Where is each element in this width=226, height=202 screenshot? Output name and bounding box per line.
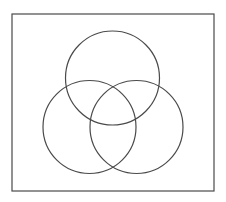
set-circle-top xyxy=(66,31,160,125)
venn-diagram xyxy=(0,0,226,202)
universal-set-frame xyxy=(12,14,214,191)
